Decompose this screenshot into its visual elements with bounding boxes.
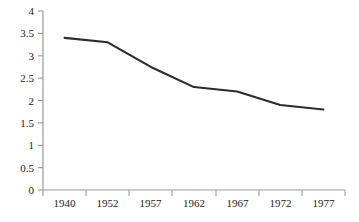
y-tick-labels: 0 0.5 1 1.5 2 2.5 3 3.5 4 (20, 5, 34, 196)
chart-canvas: 0 0.5 1 1.5 2 2.5 3 3.5 4 (0, 0, 359, 222)
y-tick-label: 2 (29, 95, 35, 107)
x-tick-labels: 1940 1952 1957 1962 1967 1972 1977 (54, 197, 336, 209)
x-axis-group: 1940 1952 1957 1962 1967 1972 1977 (43, 190, 345, 209)
y-tick-label: 2.5 (20, 72, 34, 84)
x-tick-label: 1957 (140, 197, 163, 209)
y-tick-label: 0 (29, 184, 35, 196)
y-tick-label: 0.5 (20, 162, 34, 174)
data-series-line (65, 38, 324, 110)
x-tick-label: 1972 (270, 197, 292, 209)
y-tick-label: 4 (29, 5, 35, 17)
series-group (65, 38, 324, 110)
x-tick-label: 1977 (313, 197, 336, 209)
y-axis-group: 0 0.5 1 1.5 2 2.5 3 3.5 4 (20, 5, 43, 196)
line-chart-figure: 0 0.5 1 1.5 2 2.5 3 3.5 4 (0, 0, 359, 222)
y-tick-label: 1.5 (20, 117, 34, 129)
x-tick-label: 1967 (227, 197, 250, 209)
x-tick-label: 1940 (54, 197, 77, 209)
y-tick-marks (38, 11, 43, 190)
x-tick-marks (43, 190, 345, 196)
y-tick-label: 1 (29, 139, 35, 151)
x-tick-label: 1962 (183, 197, 205, 209)
y-tick-label: 3.5 (20, 27, 34, 39)
y-tick-label: 3 (29, 50, 35, 62)
x-tick-label: 1952 (97, 197, 119, 209)
